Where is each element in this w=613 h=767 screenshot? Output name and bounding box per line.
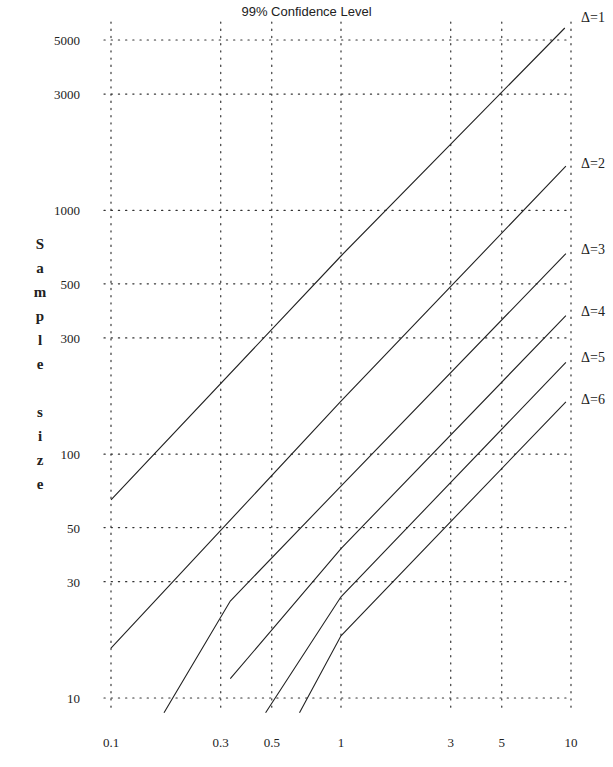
series-line <box>111 166 566 648</box>
series-line <box>230 316 566 679</box>
series-line <box>266 362 566 712</box>
series-line <box>164 254 566 713</box>
x-tick-label: 0.1 <box>103 735 119 750</box>
chart-plot: 0.10.30.51351010305010030050010003000500… <box>0 0 613 767</box>
y-tick-label: 5000 <box>54 33 80 48</box>
y-tick-label: 300 <box>61 331 81 346</box>
y-tick-label: 500 <box>61 277 81 292</box>
series-label: Δ=2 <box>581 156 605 171</box>
y-tick-label: 30 <box>67 575 80 590</box>
x-tick-label: 10 <box>565 735 578 750</box>
series-label: Δ=4 <box>581 304 605 319</box>
series-line <box>111 28 565 500</box>
x-tick-label: 0.3 <box>213 735 229 750</box>
y-tick-label: 10 <box>67 691 80 706</box>
series-line <box>300 402 566 713</box>
series-label: Δ=3 <box>581 242 605 257</box>
x-tick-label: 5 <box>499 735 506 750</box>
series-label: Δ=1 <box>581 10 605 25</box>
x-tick-label: 1 <box>338 735 345 750</box>
series-label: Δ=6 <box>581 392 605 407</box>
series-label: Δ=5 <box>581 350 605 365</box>
y-tick-label: 3000 <box>54 87 80 102</box>
x-tick-label: 0.5 <box>264 735 280 750</box>
y-tick-label: 50 <box>67 521 80 536</box>
x-tick-label: 3 <box>447 735 454 750</box>
y-tick-label: 100 <box>61 447 81 462</box>
y-tick-label: 1000 <box>54 203 80 218</box>
